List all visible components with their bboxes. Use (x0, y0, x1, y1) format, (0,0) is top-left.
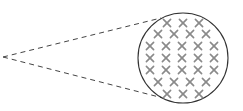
upper-dashed-ray (3, 18, 161, 57)
magnifier-diagram (0, 0, 243, 111)
